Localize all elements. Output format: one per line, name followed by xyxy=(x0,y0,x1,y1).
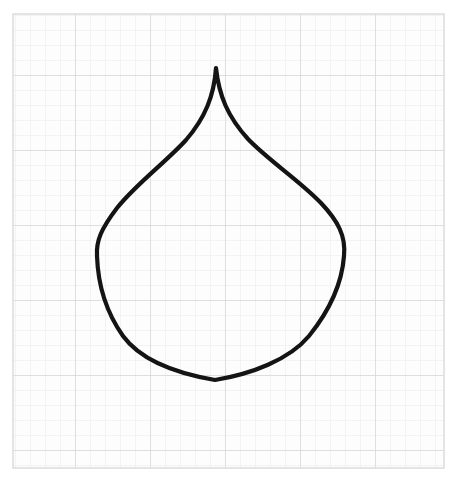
drawing-canvas: Hand-drawn closed ogee (onion dome) outl… xyxy=(0,0,458,481)
onion-dome-figure xyxy=(0,0,458,481)
graph-paper-group xyxy=(13,14,444,468)
graph-paper-grid-lines xyxy=(13,14,444,468)
